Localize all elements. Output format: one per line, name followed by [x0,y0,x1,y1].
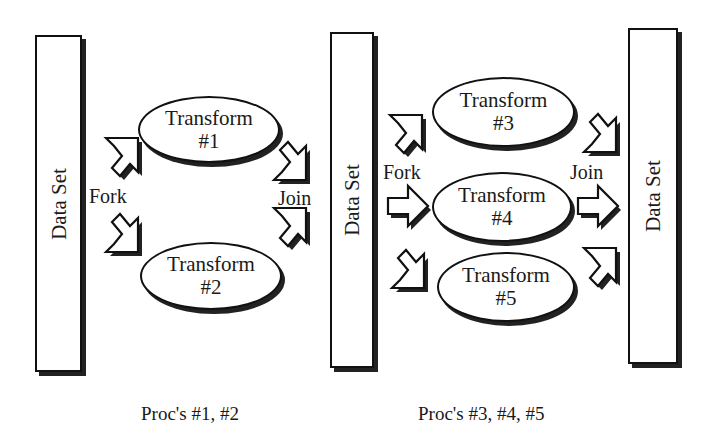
transform-number: #3 [493,112,514,135]
join-label-left: Join [278,188,311,208]
join-arrow-up-5 [584,248,620,290]
join-arrow-right-4 [578,186,621,230]
transform-2: Transform #2 [140,242,282,310]
fork-arrow-up-3 [390,115,426,157]
caption-right: Proc's #3, #4, #5 [418,403,544,425]
transform-name: Transform [462,264,550,287]
transform-name: Transform [165,107,253,130]
fork-label-left: Fork [89,186,127,206]
transform-number: #2 [201,276,222,299]
arrows-layer [0,0,712,436]
fork-join-diagram: Data Set Data Set Data Set [0,0,712,436]
join-arrow-down-1 [274,142,310,184]
transform-number: #4 [492,207,513,230]
fork-arrow-down-5 [392,250,428,292]
transform-name: Transform [167,253,255,276]
transform-5: Transform #5 [437,252,575,322]
fork-arrow-down-2 [106,214,142,256]
fork-arrow-up-1 [106,138,142,180]
caption-left: Proc's #1, #2 [141,403,239,425]
transform-name: Transform [460,89,548,112]
fork-arrow-right-4 [388,186,431,230]
transform-name: Transform [458,184,546,207]
transform-number: #1 [199,130,220,153]
join-label-right: Join [570,162,603,182]
transform-4: Transform #4 [432,172,572,242]
join-arrow-down-3 [584,114,620,156]
join-arrow-up-2 [274,208,310,250]
transform-3: Transform #3 [432,77,575,147]
transform-number: #5 [496,287,517,310]
transform-1: Transform #1 [138,96,280,163]
fork-label-right: Fork [383,162,421,182]
